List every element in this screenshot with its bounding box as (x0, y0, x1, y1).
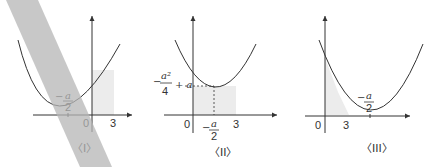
vertex-y-plus-a: + a (175, 79, 193, 90)
vertex-y-numerator: a² (161, 70, 171, 81)
x-axis-arrow-icon (272, 113, 277, 118)
x-tick-3-label: 3 (233, 118, 239, 130)
vertex-y-denominator: 4 (162, 85, 168, 97)
shaded-region (193, 86, 236, 115)
figure-3: − a 2 0 3 〈III〉 (305, 16, 423, 155)
vertex-x-numerator: a (366, 90, 372, 101)
origin-label: 0 (315, 119, 321, 131)
figure-2: − a² 4 + a 0 − a 2 3 〈II〉 (153, 16, 277, 159)
vertex-x-denominator: 2 (211, 130, 217, 142)
vertex-x-denominator: 2 (366, 102, 372, 114)
diagram-canvas: − a 2 0 3 〈I〉 − a² 4 + a 0 − a 2 3 〈II〉 (0, 0, 441, 167)
vertex-x-numerator: a (211, 118, 217, 129)
figure-caption: 〈III〉 (361, 142, 393, 155)
shaded-region (92, 70, 114, 115)
y-axis-arrow-icon (90, 16, 95, 21)
x-tick-3-label: 3 (343, 119, 349, 131)
figure-caption: 〈II〉 (209, 146, 238, 159)
minus-sign: − (202, 122, 210, 133)
x-tick-3-label: 3 (110, 117, 116, 129)
origin-label: 0 (184, 118, 190, 130)
minus-sign: − (357, 92, 365, 103)
shaded-region (325, 58, 349, 115)
y-axis-arrow-icon (191, 16, 196, 21)
y-axis-arrow-icon (323, 16, 328, 21)
x-axis-arrow-icon (127, 113, 132, 118)
x-axis-arrow-icon (405, 114, 410, 119)
